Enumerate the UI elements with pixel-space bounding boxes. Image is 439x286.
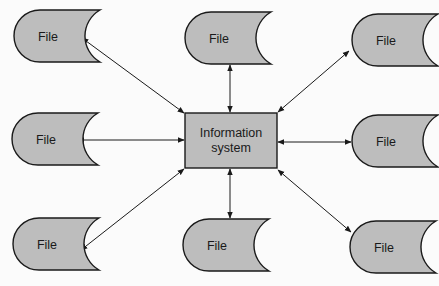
information-system-diagram: FileFileFileFileFileFileFileFile Informa… — [0, 0, 439, 286]
file-label: File — [207, 239, 227, 253]
file-label: File — [37, 238, 57, 252]
file-label: File — [374, 241, 394, 255]
file-bottom-center[interactable]: File — [183, 219, 269, 271]
information-system-node[interactable]: Information system — [185, 113, 277, 168]
file-top-right[interactable]: File — [352, 14, 438, 66]
file-bottom-left[interactable]: File — [13, 218, 99, 270]
file-bottom-right[interactable]: File — [350, 221, 436, 273]
file-label: File — [376, 135, 396, 149]
bidirectional-arrow-file-bottom-left — [81, 169, 184, 250]
information-system-label-line2: system — [211, 141, 251, 155]
information-system-label-line1: Information — [200, 126, 263, 140]
file-top-center[interactable]: File — [185, 12, 271, 64]
bidirectional-arrow-file-bottom-right — [278, 170, 351, 232]
file-label: File — [376, 34, 396, 48]
file-top-left[interactable]: File — [14, 10, 100, 62]
file-middle-left[interactable]: File — [12, 113, 98, 165]
bidirectional-arrow-file-top-right — [278, 51, 349, 112]
file-label: File — [36, 133, 56, 147]
file-middle-right[interactable]: File — [352, 115, 438, 167]
bidirectional-arrow-file-top-left — [82, 38, 184, 113]
file-label: File — [38, 30, 58, 44]
file-label: File — [209, 32, 229, 46]
